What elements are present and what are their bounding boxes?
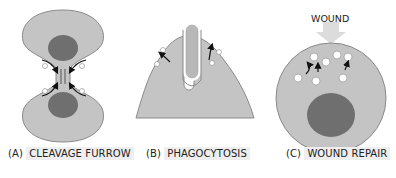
panel-c-title: WOUND REPAIR (304, 147, 390, 160)
panel-b-caption: (B) PHAGOCYTOSIS (146, 148, 250, 159)
panel-b-title: PHAGOCYTOSIS (164, 147, 250, 160)
phagocytosis-cell (136, 23, 254, 118)
wound-arrow-icon (316, 22, 346, 44)
panel-b-prefix: (B) (146, 148, 161, 159)
wound-repair-cell (276, 22, 386, 153)
wound-label: WOUND (311, 13, 349, 24)
nucleus (307, 93, 355, 137)
nucleus-top (48, 35, 78, 61)
engulfed-particle (186, 25, 198, 78)
panel-a-prefix: (A) (8, 148, 23, 159)
panel-a-title: CLEAVAGE FURROW (26, 147, 133, 160)
panel-c-prefix: (C) (286, 148, 301, 159)
nucleus-bottom (48, 92, 78, 118)
panel-a-caption: (A) CLEAVAGE FURROW (8, 148, 134, 159)
cleavage-furrow-cell (22, 10, 103, 142)
panel-c-caption: (C) WOUND REPAIR (286, 148, 390, 159)
